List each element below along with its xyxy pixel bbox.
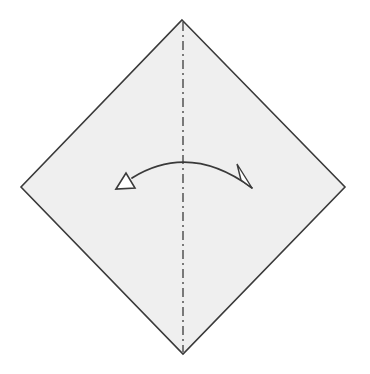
diagram-canvas bbox=[0, 0, 370, 374]
origami-diagram bbox=[0, 0, 370, 374]
